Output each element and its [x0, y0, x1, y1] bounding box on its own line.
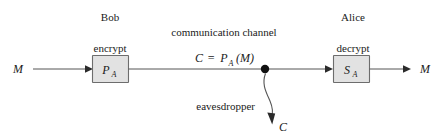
eavesdropper-arrow-head — [267, 112, 275, 124]
channel-label: communication channel — [171, 26, 276, 38]
decrypt-box-subscript: A — [352, 70, 358, 79]
output-arrow-head — [403, 65, 411, 73]
encrypt-box-subscript: A — [111, 70, 117, 79]
encrypt-box-symbol: P — [101, 63, 110, 77]
input-arrow-head — [85, 65, 93, 73]
decrypt-box — [334, 56, 370, 83]
eavesdropper-captured-ciphertext: C — [279, 120, 288, 134]
channel-arrow-head — [325, 65, 333, 73]
channel-formula-lhs: C — [195, 51, 204, 65]
encrypt-operation-label: encrypt — [94, 42, 127, 54]
channel-formula-key-symbol: P — [219, 51, 228, 65]
eavesdropper-label: eavesdropper — [196, 100, 255, 112]
channel-tap-dot — [261, 65, 269, 73]
decrypt-box-symbol: S — [344, 63, 350, 77]
encrypt-box — [93, 56, 129, 83]
eavesdropper-tap-curve — [264, 74, 273, 119]
diagram-canvas: Bob encrypt M P A communication channel … — [0, 0, 445, 138]
receiver-party-label: Alice — [341, 11, 365, 23]
channel-formula-argument: (M) — [236, 51, 254, 65]
cryptography-diagram: Bob encrypt M P A communication channel … — [0, 0, 445, 138]
plaintext-input-label: M — [12, 62, 24, 76]
plaintext-output-label: M — [419, 62, 431, 76]
sender-party-label: Bob — [101, 11, 120, 23]
channel-formula-equals: = — [207, 51, 215, 65]
decrypt-operation-label: decrypt — [337, 42, 370, 54]
channel-formula-key-subscript: A — [228, 59, 234, 68]
